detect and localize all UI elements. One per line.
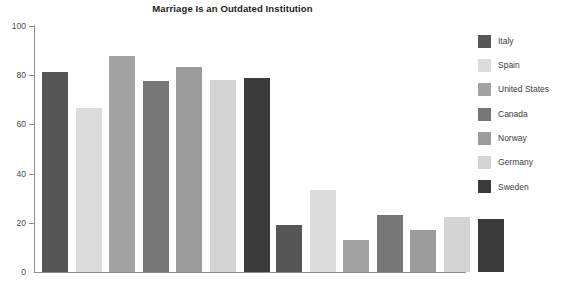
legend-item-label: Norway bbox=[498, 134, 527, 143]
bar-sweden-group2 bbox=[478, 219, 504, 272]
legend-item-spain[interactable]: Spain bbox=[478, 53, 568, 77]
y-axis-tick-label: 40 bbox=[0, 170, 26, 179]
bar-italy-group2 bbox=[276, 225, 302, 272]
y-axis-tick-label: 100 bbox=[0, 22, 26, 31]
bar-italy-group1 bbox=[42, 72, 68, 272]
legend-swatch-icon bbox=[478, 59, 491, 72]
legend-item-label: Germany bbox=[498, 158, 533, 167]
legend-item-italy[interactable]: Italy bbox=[478, 29, 568, 53]
legend-swatch-icon bbox=[478, 83, 491, 96]
legend-item-sweden[interactable]: Sweden bbox=[478, 175, 568, 199]
legend-item-norway[interactable]: Norway bbox=[478, 126, 568, 150]
bar-sweden-group1 bbox=[244, 78, 270, 272]
legend-swatch-icon bbox=[478, 180, 491, 193]
bar-canada-group2 bbox=[377, 215, 403, 272]
chart-legend: ItalySpainUnited StatesCanadaNorwayGerma… bbox=[478, 29, 568, 199]
bar-canada-group1 bbox=[143, 81, 169, 272]
bar-norway-group2 bbox=[410, 230, 436, 272]
legend-item-label: Sweden bbox=[498, 183, 529, 192]
bar-norway-group1 bbox=[176, 67, 202, 272]
bar-germany-group2 bbox=[444, 217, 470, 272]
bar-united-states-group1 bbox=[109, 56, 135, 272]
y-axis-tick-label: 60 bbox=[0, 120, 26, 129]
plot-area bbox=[34, 26, 466, 272]
legend-item-canada[interactable]: Canada bbox=[478, 102, 568, 126]
legend-item-label: Spain bbox=[498, 61, 520, 70]
y-axis-tick-label: 0 bbox=[0, 268, 26, 277]
legend-swatch-icon bbox=[478, 132, 491, 145]
legend-swatch-icon bbox=[478, 108, 491, 121]
bar-chart: Marriage Is an Outdated Institution 1008… bbox=[0, 0, 569, 286]
legend-swatch-icon bbox=[478, 35, 491, 48]
legend-item-united-states[interactable]: United States bbox=[478, 78, 568, 102]
bar-germany-group1 bbox=[210, 80, 236, 272]
legend-swatch-icon bbox=[478, 156, 491, 169]
legend-item-germany[interactable]: Germany bbox=[478, 150, 568, 174]
bar-spain-group2 bbox=[310, 190, 336, 272]
y-axis-tick-label: 80 bbox=[0, 71, 26, 80]
bar-united-states-group2 bbox=[343, 240, 369, 272]
y-axis-tick-label: 20 bbox=[0, 219, 26, 228]
bar-spain-group1 bbox=[76, 108, 102, 272]
chart-title: Marriage Is an Outdated Institution bbox=[0, 3, 465, 14]
legend-item-label: Canada bbox=[498, 110, 528, 119]
legend-item-label: Italy bbox=[498, 37, 514, 46]
x-axis-line bbox=[34, 272, 466, 273]
legend-item-label: United States bbox=[498, 85, 549, 94]
